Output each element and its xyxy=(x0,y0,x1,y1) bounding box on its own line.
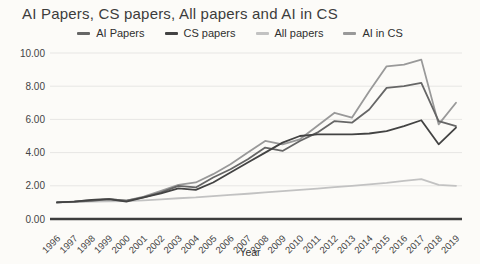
series-line-cs-papers xyxy=(57,120,456,202)
y-tick-label: 4.00 xyxy=(26,147,46,158)
y-tick-label: 8.00 xyxy=(26,81,46,92)
series-line-ai-papers xyxy=(57,83,456,203)
y-tick-label: 2.00 xyxy=(26,180,46,191)
x-axis-title: Year xyxy=(0,246,480,258)
line-chart-plot: 0.002.004.006.008.0010.00199619971998199… xyxy=(0,0,480,264)
y-tick-label: 10.00 xyxy=(20,48,45,59)
y-tick-label: 0.00 xyxy=(26,214,46,225)
y-tick-label: 6.00 xyxy=(26,114,46,125)
series-line-all-papers xyxy=(57,179,456,202)
